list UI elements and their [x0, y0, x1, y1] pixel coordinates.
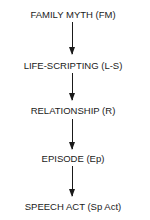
arrow-down-icon [72, 166, 73, 196]
node-episode: EPISODE (Ep) [0, 153, 146, 164]
arrow-down-icon [72, 119, 73, 149]
arrow-down-icon [72, 73, 73, 100]
arrow-down-icon [72, 22, 73, 54]
node-speech-act: SPEECH ACT (Sp Act) [0, 201, 146, 212]
node-relationship: RELATIONSHIP (R) [0, 105, 146, 116]
node-family-myth: FAMILY MYTH (FM) [0, 9, 146, 20]
node-life-scripting: LIFE-SCRIPTING (L-S) [0, 60, 146, 71]
